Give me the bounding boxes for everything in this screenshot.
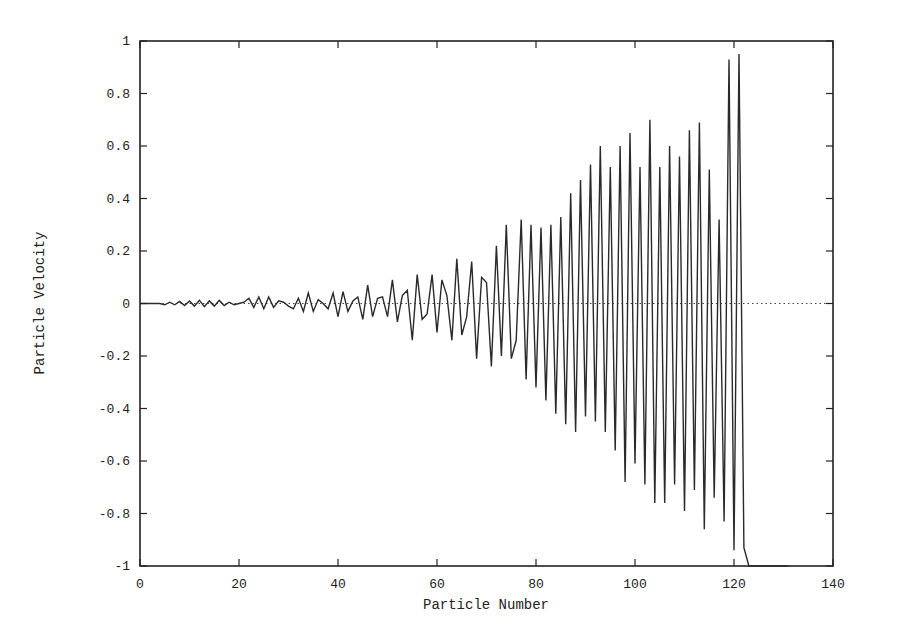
y-tick-label: -0.6: [99, 454, 130, 469]
x-tick-label: 0: [136, 577, 144, 592]
x-tick-label: 80: [528, 577, 544, 592]
velocity-series: [140, 54, 789, 566]
y-tick-label: 0.8: [107, 87, 130, 102]
x-tick-label: 40: [330, 577, 346, 592]
series-line: [140, 54, 789, 566]
y-tick-label: 0.4: [107, 192, 131, 207]
y-tick-label: -1: [114, 559, 130, 574]
x-tick-label: 100: [623, 577, 646, 592]
x-tick-label: 120: [722, 577, 745, 592]
y-tick-label: 0.6: [107, 139, 130, 154]
velocity-chart: 020406080100120140 -1-0.8-0.6-0.4-0.200.…: [0, 0, 910, 637]
y-tick-label: -0.4: [99, 402, 130, 417]
x-tick-label: 20: [231, 577, 247, 592]
y-tick-label: 1: [122, 34, 130, 49]
x-axis-label: Particle Number: [423, 597, 549, 613]
x-tick-label: 60: [429, 577, 445, 592]
y-tick-label: -0.8: [99, 507, 130, 522]
x-tick-label: 140: [821, 577, 844, 592]
y-tick-label: 0: [122, 297, 130, 312]
y-tick-label: -0.2: [99, 349, 130, 364]
y-tick-label: 0.2: [107, 244, 130, 259]
y-axis-label: Particle Velocity: [32, 232, 48, 375]
